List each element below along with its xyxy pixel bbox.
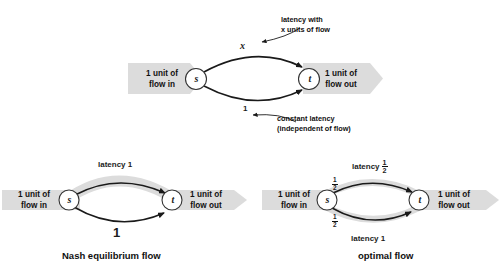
- optimal-upper-flow-fraction: 1 2: [332, 177, 338, 191]
- fraction-numerator: 1: [332, 214, 338, 220]
- nash-upper-edge-label: latency 1: [98, 160, 132, 169]
- top-lower-edge-label: 1: [243, 104, 247, 113]
- top-outflow-label: 1 unit of flow out: [310, 69, 372, 90]
- fraction-denominator: 2: [382, 166, 388, 174]
- optimal-upper-latency-label: latency 1 2: [352, 159, 388, 175]
- top-node-s-label: s: [192, 73, 201, 84]
- optimal-node-t-label: t: [416, 194, 424, 205]
- top-lower-edge: [204, 86, 302, 101]
- nash-lower-edge: [74, 207, 164, 222]
- top-upper-edge-label: x: [240, 40, 245, 51]
- top-upper-edge: [204, 57, 302, 72]
- nash-inflow-label: 1 unit of flow in: [6, 190, 62, 211]
- optimal-node-s-label: s: [323, 194, 332, 205]
- nash-outflow-label: 1 unit of flow out: [177, 190, 235, 211]
- diagram-vector-layer: [0, 0, 502, 278]
- optimal-upper-latency-text: latency: [352, 162, 380, 171]
- optimal-inflow-label: 1 unit of flow in: [265, 190, 323, 211]
- optimal-lower-latency-label: latency 1: [351, 234, 385, 243]
- top-upper-annotation: latency with x units of flow: [281, 15, 330, 34]
- optimal-outflow-label: 1 unit of flow out: [424, 190, 484, 211]
- nash-caption: Nash equilibrium flow: [62, 250, 161, 261]
- optimal-upper-latency-fraction: 1 2: [382, 159, 388, 175]
- fraction-denominator: 2: [332, 221, 338, 228]
- optimal-caption: optimal flow: [358, 250, 413, 261]
- fraction-numerator: 1: [382, 159, 388, 166]
- nash-node-t-label: t: [169, 194, 177, 205]
- optimal-lower-flow-fraction: 1 2: [332, 214, 338, 228]
- figure-canvas: 1 unit of flow in 1 unit of flow out s t…: [0, 0, 502, 278]
- top-lower-annotation: constant latency (independent of flow): [277, 114, 351, 133]
- nash-node-s-label: s: [65, 194, 74, 205]
- nash-lower-edge-label: 1: [113, 225, 120, 240]
- fraction-denominator: 2: [332, 184, 338, 191]
- optimal-lower-flow-amount: 1 2: [332, 212, 338, 230]
- optimal-upper-flow-amount: 1 2: [332, 175, 338, 193]
- top-node-t-label: t: [306, 73, 314, 84]
- fraction-numerator: 1: [332, 177, 338, 183]
- top-inflow-label: 1 unit of flow in: [133, 69, 191, 90]
